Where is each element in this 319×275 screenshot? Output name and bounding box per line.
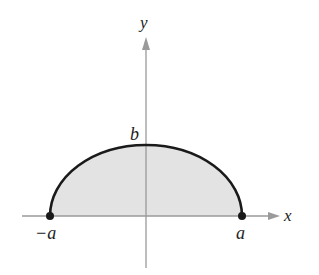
ellipse-diagram: y x b −a a [0,0,319,275]
right-endpoint [238,212,246,220]
a-label: a [236,223,245,243]
left-endpoint [46,212,54,220]
y-axis-arrow-icon [142,37,150,50]
neg-a-label: −a [35,223,56,243]
y-axis-label: y [138,13,148,32]
b-label: b [130,124,139,144]
x-axis-label: x [283,206,292,225]
x-axis-arrow-icon [268,212,280,220]
